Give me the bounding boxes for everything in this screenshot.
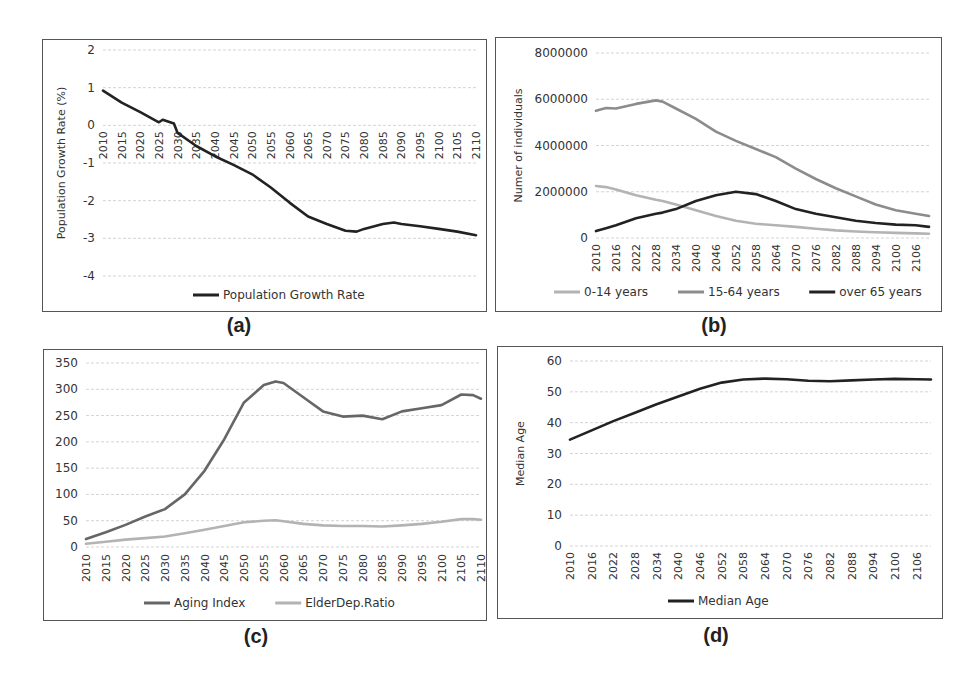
- x-tick-label: 2055: [258, 554, 271, 582]
- y-tick-label: 150: [55, 461, 78, 475]
- x-tick-label: 2040: [690, 244, 703, 272]
- gridlines: [596, 53, 929, 238]
- x-tick-label: 2070: [790, 244, 803, 272]
- y-tick-label: 6000000: [535, 92, 588, 106]
- x-tick-label: 2025: [153, 131, 166, 159]
- x-axis-ticks: 2010201620222028203420402046205220582064…: [590, 244, 923, 272]
- x-tick-label: 2052: [730, 244, 743, 272]
- y-tick-label: 0: [87, 118, 95, 132]
- x-tick-label: 2070: [781, 552, 794, 580]
- x-tick-label: 2100: [889, 552, 902, 580]
- x-tick-label: 2046: [710, 244, 723, 272]
- x-tick-label: 2022: [607, 552, 620, 580]
- x-tick-label: 2094: [870, 244, 883, 272]
- legend: Population Growth Rate: [193, 288, 365, 302]
- y-tick-label: -2: [83, 194, 95, 208]
- caption-a: (a): [209, 314, 269, 337]
- x-tick-label: 2020: [134, 131, 147, 159]
- x-tick-label: 2030: [159, 554, 172, 582]
- x-tick-label: 2094: [867, 552, 880, 580]
- series-line-0-14-years: [596, 186, 929, 234]
- x-tick-label: 2010: [80, 554, 93, 582]
- legend: 0-14 years15-64 yearsover 65 years: [554, 285, 922, 299]
- series-lines: [596, 100, 929, 233]
- y-tick-label: 100: [55, 487, 78, 501]
- x-tick-label: 2010: [97, 131, 110, 159]
- x-tick-label: 2085: [376, 554, 389, 582]
- x-tick-label: 2095: [416, 554, 429, 582]
- gridlines: [86, 363, 481, 547]
- y-axis-ticks: 210-1-2-3-4: [83, 43, 95, 283]
- chart-b-svg: 80000006000000400000020000000Numer of in…: [496, 38, 943, 313]
- x-tick-label: 2052: [716, 552, 729, 580]
- x-tick-label: 2085: [377, 131, 390, 159]
- y-tick-label: 30: [547, 447, 562, 461]
- x-tick-label: 2106: [910, 244, 923, 272]
- y-tick-label: 20: [547, 477, 562, 491]
- x-tick-label: 2060: [278, 554, 291, 582]
- x-tick-label: 2028: [650, 244, 663, 272]
- x-tick-label: 2016: [610, 244, 623, 272]
- x-tick-label: 2088: [850, 244, 863, 272]
- y-tick-label: 60: [547, 354, 562, 368]
- x-tick-label: 2090: [395, 131, 408, 159]
- x-tick-label: 2050: [246, 131, 259, 159]
- x-tick-label: 2088: [846, 552, 859, 580]
- x-tick-label: 2016: [586, 552, 599, 580]
- x-tick-label: 2035: [179, 554, 192, 582]
- y-tick-label: 10: [547, 508, 562, 522]
- x-tick-label: 2106: [911, 552, 924, 580]
- y-tick-label: 2000000: [535, 185, 588, 199]
- x-tick-label: 2020: [120, 554, 133, 582]
- x-tick-label: 2080: [358, 131, 371, 159]
- caption-b: (b): [684, 314, 744, 337]
- x-tick-label: 2070: [321, 131, 334, 159]
- x-tick-label: 2040: [672, 552, 685, 580]
- x-tick-label: 2100: [890, 244, 903, 272]
- y-tick-label: 1: [87, 81, 95, 95]
- x-axis-ticks: 2010201520202025203020352040204520502055…: [97, 131, 483, 159]
- x-tick-label: 2110: [470, 131, 483, 159]
- legend-label: ElderDep.Ratio: [305, 596, 395, 610]
- x-tick-label: 2095: [414, 131, 427, 159]
- gridlines: [570, 361, 931, 546]
- legend-label: 15-64 years: [708, 285, 780, 299]
- x-tick-label: 2046: [694, 552, 707, 580]
- x-tick-label: 2065: [297, 554, 310, 582]
- legend-label: over 65 years: [839, 285, 922, 299]
- y-axis-label: Median Age: [514, 421, 527, 486]
- x-tick-label: 2034: [651, 552, 664, 580]
- x-tick-label: 2034: [670, 244, 683, 272]
- caption-c: (c): [226, 625, 286, 648]
- legend: Aging IndexElderDep.Ratio: [144, 596, 395, 610]
- x-tick-label: 2105: [451, 131, 464, 159]
- y-tick-label: 8000000: [535, 46, 588, 60]
- x-tick-label: 2076: [810, 244, 823, 272]
- x-tick-label: 2076: [802, 552, 815, 580]
- x-tick-label: 2080: [357, 554, 370, 582]
- caption-d: (d): [686, 624, 746, 647]
- y-axis-ticks: 350300250200150100500: [55, 356, 78, 554]
- y-tick-label: 0: [580, 231, 588, 245]
- chart-c-svg: 3503002502001501005002010201520202025203…: [44, 350, 488, 622]
- chart-panel-a: 210-1-2-3-4Population Growth Rate (%)201…: [42, 39, 487, 312]
- x-tick-label: 2015: [100, 554, 113, 582]
- x-tick-label: 2028: [629, 552, 642, 580]
- chart-panel-d: 6050403020100Median Age20102016202220282…: [497, 346, 943, 619]
- y-axis-ticks: 6050403020100: [547, 354, 562, 553]
- x-tick-label: 2082: [824, 552, 837, 580]
- y-tick-label: -4: [83, 269, 95, 283]
- x-tick-label: 2070: [317, 554, 330, 582]
- y-tick-label: 50: [547, 385, 562, 399]
- y-axis-ticks: 80000006000000400000020000000: [535, 46, 588, 245]
- x-tick-label: 2090: [396, 554, 409, 582]
- x-axis-ticks: 2010201520202025203020352040204520502055…: [80, 554, 488, 582]
- x-tick-label: 2075: [337, 554, 350, 582]
- legend-label: Population Growth Rate: [223, 288, 365, 302]
- x-tick-label: 2022: [630, 244, 643, 272]
- x-tick-label: 2045: [218, 554, 231, 582]
- series-lines: [570, 379, 931, 440]
- x-tick-label: 2064: [770, 244, 783, 272]
- x-tick-label: 2105: [455, 554, 468, 582]
- y-axis-label: Numer of individuals: [512, 88, 525, 202]
